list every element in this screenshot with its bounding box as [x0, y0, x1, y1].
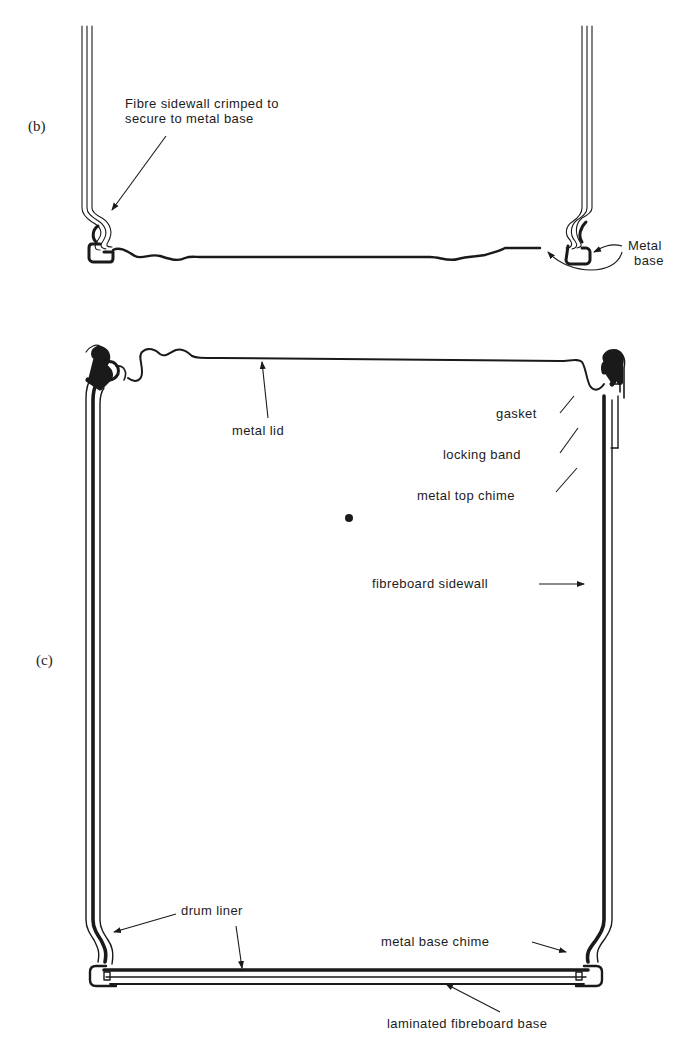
annotation-line-1: Fibre sidewall crimped to	[125, 96, 279, 111]
annotation-fibreboard-sidewall: fibreboard sidewall	[372, 576, 488, 591]
fibre-drum-diagram: (b) (c) Fibre sidewall crimped to secure…	[0, 0, 691, 1048]
panel-b-drawing	[82, 26, 592, 264]
annotation-metal-base: Metal base	[628, 238, 664, 268]
annotation-laminated-fibreboard-base: laminated fibreboard base	[387, 1016, 547, 1031]
panel-label-b: (b)	[28, 118, 46, 135]
annotation-line-2: secure to metal base	[125, 111, 279, 126]
annotation-metal-top-chime: metal top chime	[417, 488, 515, 503]
annotation-metal-base-chime: metal base chime	[381, 934, 489, 949]
annotation-gasket: gasket	[496, 406, 537, 421]
panel-b-leaders	[112, 136, 622, 270]
panel-c-drawing	[86, 345, 625, 986]
annotation-line-2: base	[628, 253, 664, 268]
annotation-locking-band: locking band	[443, 447, 521, 462]
panel-label-b-text: (b)	[28, 118, 46, 134]
stray-dot	[345, 514, 353, 522]
annotation-line-1: Metal	[628, 238, 664, 253]
panel-label-c-text: (c)	[36, 652, 53, 668]
annotation-drum-liner: drum liner	[181, 903, 243, 918]
panel-label-c: (c)	[36, 652, 53, 669]
annotation-fibre-sidewall-crimped: Fibre sidewall crimped to secure to meta…	[125, 96, 279, 126]
drum-cross-section-drawing	[0, 0, 691, 1048]
annotation-metal-lid: metal lid	[232, 423, 284, 438]
